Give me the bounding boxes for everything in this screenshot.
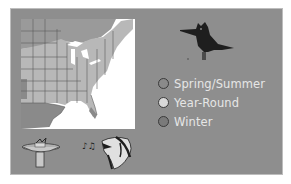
- legend-item-spring-summer: Spring/Summer: [158, 74, 265, 93]
- svg-text:♪♫: ♪♫: [82, 141, 96, 151]
- us-range-map-icon: [21, 19, 135, 129]
- legend-label: Spring/Summer: [174, 77, 265, 91]
- year-round-swatch-icon: [158, 97, 169, 108]
- legend-item-winter: Winter: [158, 112, 265, 131]
- singing-bird-icon[interactable]: ♪♫: [82, 135, 134, 171]
- kingfisher-icon: [178, 18, 240, 64]
- winter-swatch-icon: [158, 116, 169, 127]
- legend: Spring/Summer Year-Round Winter: [158, 74, 265, 131]
- range-map: [21, 19, 135, 129]
- spring-summer-swatch-icon: [158, 78, 169, 89]
- legend-label: Year-Round: [174, 96, 239, 110]
- legend-label: Winter: [174, 115, 213, 129]
- bird-bath-icon[interactable]: [20, 137, 62, 169]
- legend-item-year-round: Year-Round: [158, 93, 265, 112]
